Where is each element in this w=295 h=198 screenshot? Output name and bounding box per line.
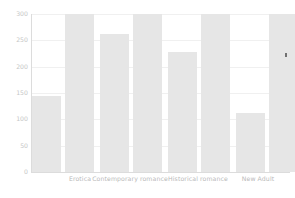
x-tick-label-new-adult: New Adult [228,176,288,182]
y-tick-label: 250 [0,37,28,43]
y-tick-label: 150 [0,90,28,96]
y-tick-label: 300 [0,11,28,17]
bar [236,113,265,173]
bar [100,34,129,173]
bar [168,52,197,172]
x-axis-line [31,172,290,173]
plot-area [32,14,290,172]
y-tick-label: 100 [0,116,28,122]
y-tick-label: 50 [0,143,28,149]
bar [32,96,61,172]
y-tick-label: 0 [0,169,28,175]
bar-chart: 300 250 200 150 100 50 0 Erotica Contemp… [0,0,295,198]
bar [269,14,295,172]
bar [133,14,162,172]
stray-mark-icon [285,53,287,57]
y-tick-label: 200 [0,64,28,70]
bar [201,14,230,172]
bar [65,14,94,172]
